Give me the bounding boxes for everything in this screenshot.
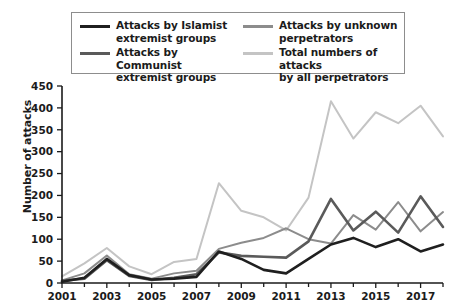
y-axis-ticks: 050100150200250300350400450 [31, 80, 62, 289]
legend-label-islamist: Attacks by Islamist extremist groups [116, 19, 227, 44]
legend-item-islamist: Attacks by Islamist extremist groups [80, 19, 237, 44]
x-tick-label: 2015 [361, 290, 390, 302]
axis-frame [62, 86, 443, 283]
legend-swatch-total [243, 52, 273, 55]
legend-swatch-unknown [243, 25, 273, 28]
y-tick-label: 0 [46, 277, 53, 289]
y-tick-label: 300 [31, 145, 53, 157]
y-tick-label: 250 [31, 167, 53, 179]
y-tick-label: 200 [31, 189, 53, 201]
x-tick-label: 2011 [272, 290, 301, 302]
x-tick-label: 2013 [316, 290, 345, 302]
legend-item-unknown: Attacks by unknown perpetrators [243, 19, 400, 44]
y-tick-label: 450 [31, 80, 53, 92]
series-line-total [62, 101, 443, 276]
x-tick-label: 2001 [47, 290, 76, 302]
y-tick-label: 350 [31, 124, 53, 136]
x-axis-ticks: 200120032005200720092011201320152017 [47, 283, 443, 302]
line-chart: 050100150200250300350400450 200120032005… [0, 76, 454, 303]
y-tick-label: 100 [31, 233, 53, 245]
y-tick-label: 150 [31, 211, 53, 223]
legend-swatch-islamist [80, 25, 110, 28]
x-tick-label: 2005 [137, 290, 166, 302]
series-line-islamist [62, 238, 443, 282]
plot-area: 050100150200250300350400450 200120032005… [0, 76, 454, 303]
x-tick-label: 2007 [182, 290, 211, 302]
legend-label-unknown: Attacks by unknown perpetrators [279, 19, 397, 44]
x-tick-label: 2009 [227, 290, 256, 302]
x-tick-label: 2003 [92, 290, 121, 302]
y-tick-label: 50 [38, 255, 53, 267]
legend-swatch-communist [80, 52, 110, 55]
legend-grid: Attacks by Islamist extremist groups Att… [72, 13, 404, 73]
x-tick-label: 2017 [406, 290, 435, 302]
series-layer [62, 101, 443, 281]
y-tick-label: 400 [31, 102, 53, 114]
chart-legend: Attacks by Islamist extremist groups Att… [71, 12, 405, 74]
chart-screenshot: Attacks by Islamist extremist groups Att… [0, 0, 454, 303]
